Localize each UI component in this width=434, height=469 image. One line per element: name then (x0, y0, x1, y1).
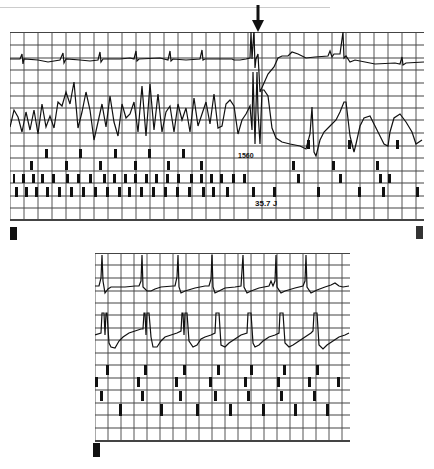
panel-b-tracing (95, 253, 351, 443)
down-arrow-icon (251, 5, 265, 33)
panel-a-tracing (10, 32, 425, 222)
ventricular-egm-trace (95, 313, 349, 349)
panel-b-label (93, 443, 100, 457)
panel-a-end-marker (416, 226, 423, 239)
panel-a-label (10, 227, 17, 240)
interval-annotation: 1560 (238, 152, 254, 159)
panel-a-strip (10, 32, 425, 222)
marker-channel-atrial (13, 140, 419, 197)
shock-energy-annotation: 35.7 J (255, 199, 277, 208)
header-rule (0, 7, 330, 8)
panel-b-strip (95, 253, 351, 443)
grid-horizontal (95, 253, 350, 441)
atrial-egm-trace (95, 255, 349, 293)
